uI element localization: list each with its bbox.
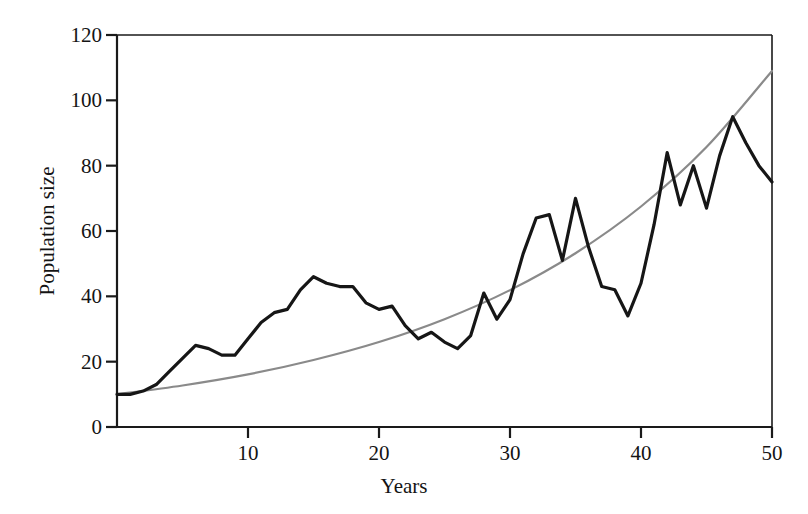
- x-tick-label-40: 40: [631, 441, 652, 466]
- x-tick-label-10: 10: [238, 441, 259, 466]
- x-tick-label-20: 20: [369, 441, 390, 466]
- series-stochastic-population-line: [117, 117, 772, 395]
- axis-lines: [117, 35, 772, 427]
- y-axis-title: Population size: [35, 81, 60, 381]
- figure-population-growth: 020406080100120 1020304050 Years Populat…: [0, 0, 808, 514]
- x-tick-label-50: 50: [762, 441, 783, 466]
- axis-ticks: [106, 35, 772, 438]
- series-deterministic-exponential-line: [117, 71, 772, 394]
- y-tick-label-0: 0: [40, 415, 102, 440]
- y-tick-label-120: 120: [40, 23, 102, 48]
- x-axis-title: Years: [0, 474, 808, 499]
- plot-area: [0, 0, 808, 514]
- x-tick-label-30: 30: [500, 441, 521, 466]
